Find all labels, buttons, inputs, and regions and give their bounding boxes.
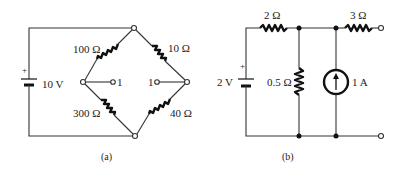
battery-a-label: 10 V bbox=[42, 78, 64, 90]
caption-b: (b) bbox=[282, 151, 294, 163]
battery-b-plus: + bbox=[240, 61, 245, 71]
output-terminal-bottom bbox=[379, 134, 384, 139]
terminal-left-inner bbox=[111, 80, 116, 85]
resistor-0-5-ohm: 0.5 Ω bbox=[267, 28, 303, 136]
resistor-100-label: 100 Ω bbox=[73, 43, 100, 55]
terminal-right-inner bbox=[155, 80, 160, 85]
resistor-0-5-label: 0.5 Ω bbox=[267, 76, 292, 88]
resistor-3-ohm: 3 Ω bbox=[336, 9, 379, 31]
terminal-right-label: 1 bbox=[148, 76, 154, 88]
node-left-a bbox=[81, 80, 86, 85]
junction-top-1 bbox=[297, 26, 302, 31]
junction-top-2 bbox=[334, 26, 339, 31]
current-source-1a: 1 A bbox=[324, 28, 368, 136]
junction-bottom-2 bbox=[334, 134, 339, 139]
resistor-3-label: 3 Ω bbox=[350, 9, 366, 21]
output-terminal-top bbox=[379, 26, 384, 31]
bottom-wire-b bbox=[246, 91, 379, 136]
resistor-40-ohm: 40 Ω bbox=[137, 84, 192, 134]
node-bottom-a bbox=[133, 134, 138, 139]
circuit-figure: + 10 V 100 Ω 10 Ω 300 Ω bbox=[0, 0, 403, 177]
battery-b-label: 2 V bbox=[217, 76, 233, 88]
caption-a: (a) bbox=[101, 151, 112, 163]
battery-a-plus: + bbox=[22, 65, 27, 75]
resistor-300-ohm: 300 Ω bbox=[73, 84, 133, 134]
panel-a: + 10 V 100 Ω 10 Ω 300 Ω bbox=[21, 26, 192, 164]
resistor-40-label: 40 Ω bbox=[170, 107, 192, 119]
panel-b: + 2 V 2 Ω 0.5 Ω 1 A bbox=[217, 9, 384, 163]
node-right-a bbox=[185, 80, 190, 85]
node-top-a bbox=[132, 26, 137, 31]
resistor-10-ohm: 10 Ω bbox=[136, 30, 190, 80]
resistor-300-label: 300 Ω bbox=[73, 107, 100, 119]
top-left-wire-b bbox=[246, 28, 260, 73]
current-source-label: 1 A bbox=[352, 76, 368, 88]
junction-bottom-1 bbox=[297, 134, 302, 139]
resistor-2-label: 2 Ω bbox=[264, 9, 280, 21]
terminal-left-label: 1 bbox=[117, 76, 123, 88]
resistor-100-ohm: 100 Ω bbox=[73, 30, 132, 80]
resistor-10-label: 10 Ω bbox=[168, 42, 190, 54]
battery-2v: + 2 V bbox=[217, 61, 254, 91]
battery-10v: + 10 V bbox=[21, 65, 64, 93]
